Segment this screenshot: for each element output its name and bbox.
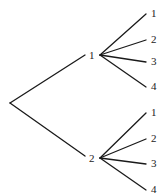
edge-1-4: [100, 55, 146, 87]
leaf-label-1-4: 4: [151, 80, 157, 92]
leaf-label-1-1: 1: [151, 7, 157, 19]
branch-label-2: 2: [89, 152, 95, 164]
leaf-label-2-3: 3: [151, 157, 157, 169]
leaf-label-2-4: 4: [151, 183, 157, 195]
branch-2-leaves: 1 2 3 4: [100, 106, 157, 195]
tree-diagram: 1 1 2 3 4 2 1 2 3 4: [0, 0, 166, 195]
edge-2-1: [100, 113, 146, 158]
edge-1-3: [100, 55, 146, 62]
leaf-label-2-1: 1: [151, 106, 157, 118]
edge-root-to-2: [10, 103, 85, 156]
branch-label-1: 1: [89, 49, 95, 61]
edge-root-to-1: [10, 55, 85, 103]
edge-2-2: [100, 139, 146, 158]
edge-1-2: [100, 40, 146, 55]
leaf-label-1-2: 2: [151, 33, 157, 45]
edge-1-1: [100, 14, 146, 55]
leaf-label-2-2: 2: [151, 132, 157, 144]
leaf-label-1-3: 3: [151, 55, 157, 67]
branch-1-leaves: 1 2 3 4: [100, 7, 157, 92]
